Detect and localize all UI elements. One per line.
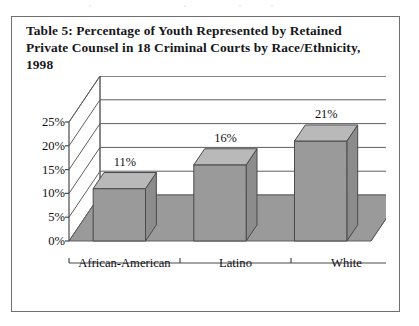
bar-chart-3d: 0%5%10%15%20%25% African-AmericanLatinoW… xyxy=(26,76,386,309)
bar-top-face xyxy=(294,125,357,141)
bar-front-face xyxy=(294,141,346,241)
y-tick-label: 15% xyxy=(42,162,65,177)
bar-african-american[interactable] xyxy=(93,173,156,241)
scan-artifact xyxy=(60,2,360,10)
bar-value-label: 16% xyxy=(214,131,237,146)
y-tick-label: 10% xyxy=(42,186,65,201)
x-axis-label: White xyxy=(331,256,362,271)
bar-side-face xyxy=(347,125,358,241)
figure-box: Table 5: Percentage of Youth Represented… xyxy=(11,16,400,312)
bar-top-face xyxy=(194,149,257,165)
y-tick-label: 20% xyxy=(42,138,65,153)
y-axis xyxy=(65,122,69,241)
bar-value-label: 11% xyxy=(114,155,136,170)
bar-latino[interactable] xyxy=(194,149,257,241)
y-tick-label: 5% xyxy=(48,210,65,225)
x-axis-label: African-American xyxy=(78,256,170,271)
figure-caption: Table 5: Percentage of Youth Represented… xyxy=(26,22,382,74)
bar-white[interactable] xyxy=(294,125,357,241)
x-axis-label: Latino xyxy=(219,256,252,271)
y-tick-label: 25% xyxy=(42,115,65,130)
bar-front-face xyxy=(93,189,145,241)
bar-top-face xyxy=(93,173,156,189)
x-axis-labels: African-AmericanLatinoWhite xyxy=(26,243,386,263)
bar-value-label: 21% xyxy=(315,107,338,122)
bar-front-face xyxy=(194,165,246,241)
